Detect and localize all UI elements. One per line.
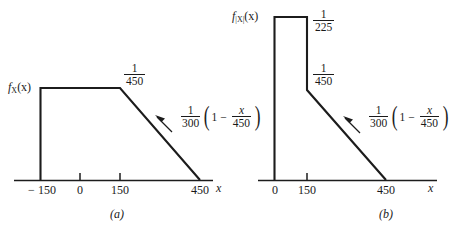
panel-b-plateau-numerator: 1 <box>313 8 334 20</box>
panel-a-graphics <box>14 88 213 181</box>
panel-b-step-denominator: 450 <box>313 74 334 87</box>
panel-a-slope-lead-fraction: 1 300 <box>181 104 200 129</box>
panel-b-slope-inner-numerator: x <box>420 104 439 116</box>
panel-a-slope-minus: − <box>220 111 227 123</box>
panel-a-function-arg: (x) <box>17 80 31 94</box>
panel-a-ticklabel-450: 450 <box>186 183 214 198</box>
panel-b-x-axis-label: x <box>428 181 433 196</box>
panel-b-ticklabel-450: 450 <box>372 183 400 198</box>
panel-b-open-paren: ( <box>392 105 398 127</box>
panel-b-function-label: f|X|(x) <box>232 9 258 24</box>
panel-a-slope-inner-denominator: 450 <box>232 116 251 129</box>
panel-a-slope-lead-denominator: 300 <box>181 116 200 129</box>
panel-b-slope-lead-denominator: 300 <box>369 116 388 129</box>
panel-b-caption: (b) <box>366 207 406 222</box>
panel-b-close-paren: ) <box>443 105 449 127</box>
panel-a-plateau-height-label: 1 450 <box>124 62 145 87</box>
panel-a-slope-formula: 1 300 ( 1 − x 450 ) <box>179 104 262 129</box>
panel-a-function-label: fX(x) <box>8 80 31 95</box>
panel-b-slope-lead-numerator: 1 <box>369 104 388 116</box>
panel-b-step-numerator: 1 <box>313 62 334 74</box>
panel-b-step-height-label: 1 450 <box>313 62 334 87</box>
panel-b-slope-formula: 1 300 ( 1 − x 450 ) <box>367 104 450 129</box>
panel-a-plateau-denominator: 450 <box>124 74 145 87</box>
panel-b-slope-lead-fraction: 1 300 <box>369 104 388 129</box>
panel-a-formula-pointer-head <box>155 115 165 122</box>
panel-a-slope-inner-fraction: x 450 <box>232 104 251 129</box>
panel-a-x-axis-label: x <box>216 181 221 196</box>
panel-a-ticklabel-minus150: − 150 <box>20 183 64 198</box>
panel-a-open-paren: ( <box>204 105 210 127</box>
panel-b-slope-inner-denominator: 450 <box>420 116 439 129</box>
panel-b-ticklabel-0: 0 <box>263 183 287 198</box>
panel-b-slope-one: 1 <box>400 111 406 123</box>
panel-a-slope-one: 1 <box>212 111 218 123</box>
panel-b-plateau-height-label: 1 225 <box>313 8 334 33</box>
panel-a-plateau-numerator: 1 <box>124 62 145 74</box>
panel-a-close-paren: ) <box>255 105 261 127</box>
panel-b-formula-pointer-head <box>343 116 353 123</box>
panel-b-slope-inner-fraction: x 450 <box>420 104 439 129</box>
panel-a-ticklabel-150: 150 <box>106 183 134 198</box>
panel-b-slope-minus: − <box>408 111 415 123</box>
panel-a-slope-inner-numerator: x <box>232 104 251 116</box>
panel-a-slope-lead-numerator: 1 <box>181 104 200 116</box>
panel-b-graphics <box>258 17 437 181</box>
panel-b-density-curve <box>275 17 387 181</box>
panel-b-function-arg: (x) <box>244 9 258 23</box>
panel-b-ticklabel-150: 150 <box>293 183 321 198</box>
panel-a-ticklabel-0: 0 <box>68 183 92 198</box>
panel-a-caption: (a) <box>97 207 137 222</box>
panel-a-density-curve <box>41 88 201 181</box>
panel-b-plateau-denominator: 225 <box>313 20 334 33</box>
panel-b-function-subscript: |X| <box>235 15 244 24</box>
